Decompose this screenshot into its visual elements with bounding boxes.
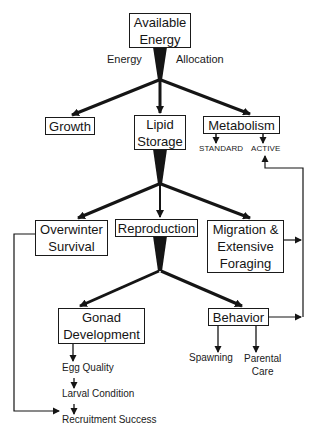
label-spawning: Spawning [189, 352, 233, 363]
node-metabolism: Metabolism [203, 116, 280, 134]
arrow-to-overwinter [78, 184, 159, 218]
arrow-to-growth [72, 80, 159, 115]
node-overwinter-survival: Overwinter Survival [35, 220, 108, 256]
label-egg-quality: Egg Quality [62, 362, 114, 373]
label-allocation: Allocation [176, 53, 224, 65]
node-migration-foraging-label: Migration & Extensive Foraging [213, 221, 279, 272]
arrow-to-metabolism [161, 80, 250, 114]
node-available-energy-label: Available Energy [134, 14, 187, 48]
node-lipid-storage: Lipid Storage [134, 115, 186, 150]
energy-wedge [153, 47, 167, 80]
node-gonad-development: Gonad Development [58, 308, 145, 344]
node-behavior-label: Behavior [213, 309, 264, 326]
node-growth: Growth [45, 117, 95, 135]
node-lipid-storage-label: Lipid Storage [137, 116, 183, 150]
label-standard: STANDARD [199, 144, 243, 153]
lipid-wedge [153, 149, 167, 184]
arrow-to-gonad [80, 271, 159, 306]
energy-allocation-diagram: Available Energy Energy Allocation Growt… [0, 0, 317, 434]
node-migration-foraging: Migration & Extensive Foraging [207, 220, 284, 273]
line-overwinter-to-recruitment [14, 234, 59, 411]
node-behavior: Behavior [208, 308, 269, 326]
node-growth-label: Growth [49, 118, 91, 135]
label-recruitment-success: Recruitment Success [62, 414, 156, 425]
reproduction-wedge [153, 236, 167, 271]
arrow-to-migration [161, 184, 250, 218]
node-reproduction-label: Reproduction [118, 220, 195, 237]
node-overwinter-survival-label: Overwinter Survival [40, 221, 103, 255]
node-gonad-development-label: Gonad Development [63, 309, 140, 343]
label-energy: Energy [107, 53, 142, 65]
node-reproduction: Reproduction [115, 219, 198, 237]
label-active: ACTIVE [251, 144, 281, 153]
label-larval-condition: Larval Condition [62, 388, 134, 399]
node-metabolism-label: Metabolism [208, 117, 274, 134]
arrow-to-behavior [161, 271, 242, 306]
label-parental-care: Parental Care [244, 352, 281, 378]
node-available-energy: Available Energy [129, 13, 191, 48]
